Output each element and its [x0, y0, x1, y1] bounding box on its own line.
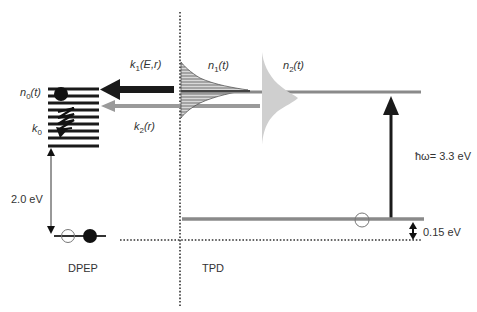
- label-dpep: DPEP: [68, 263, 98, 274]
- label-k0: k0: [32, 123, 42, 137]
- gap-arrow-down-head: [47, 226, 55, 234]
- label-gap-dpep: 2.0 eV: [11, 194, 43, 205]
- label-tpd: TPD: [202, 263, 224, 274]
- label-offset: 0.15 eV: [423, 227, 461, 238]
- label-k2: k2(r): [134, 121, 155, 135]
- offset-arrow-down-head: [409, 233, 417, 240]
- photon-arrow-head: [383, 96, 399, 115]
- gap-arrow-up-head: [47, 148, 55, 156]
- k1-arrow-head: [100, 79, 120, 100]
- k2-arrow-head: [101, 100, 115, 112]
- label-photon-energy: ħω= 3.3 eV: [415, 151, 471, 162]
- offset-arrow-up-head: [409, 222, 417, 229]
- label-n2: n2(t): [283, 60, 304, 74]
- electron-dpep-ground: [83, 229, 97, 243]
- label-k1: k1(E,r): [130, 59, 161, 73]
- electron-n0: [54, 87, 68, 101]
- label-n1: n1(t): [208, 60, 229, 74]
- label-n0: n0(t): [20, 87, 41, 101]
- k1-arrow-shaft: [118, 86, 174, 93]
